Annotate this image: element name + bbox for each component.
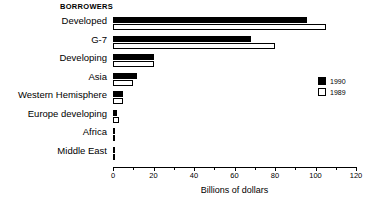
x-tick-minor bbox=[336, 167, 337, 170]
bar-1989 bbox=[113, 135, 115, 141]
bar-1990 bbox=[113, 17, 307, 23]
legend-item: 1989 bbox=[318, 87, 366, 98]
bar-1990 bbox=[113, 54, 154, 60]
x-tick-minor bbox=[255, 167, 256, 170]
x-tick-label: 80 bbox=[271, 172, 279, 180]
bar-1990 bbox=[113, 36, 251, 42]
x-tick-minor bbox=[174, 167, 175, 170]
chart-legend: 19901989 bbox=[318, 76, 366, 98]
legend-swatch bbox=[318, 77, 326, 85]
bar-group bbox=[113, 128, 356, 143]
x-tick-minor bbox=[214, 167, 215, 170]
bar-1990 bbox=[113, 91, 123, 97]
bar-1989 bbox=[113, 61, 154, 67]
legend-swatch bbox=[318, 88, 326, 96]
x-tick-label: 0 bbox=[111, 172, 115, 180]
x-tick-label: 20 bbox=[149, 172, 157, 180]
category-label: Middle East bbox=[0, 146, 110, 156]
bar-1989 bbox=[113, 80, 133, 86]
x-axis-title: Billions of dollars bbox=[113, 185, 356, 195]
category-label: Europe developing bbox=[0, 109, 110, 119]
bar-1989 bbox=[113, 24, 326, 30]
category-axis-labels: DevelopedG-7DevelopingAsiaWestern Hemisp… bbox=[0, 0, 110, 160]
bar-1990 bbox=[113, 73, 137, 79]
bar-group bbox=[113, 17, 356, 32]
x-tick-label: 100 bbox=[309, 172, 322, 180]
category-label: G-7 bbox=[0, 35, 110, 45]
bar-1990 bbox=[113, 147, 115, 153]
category-label: Western Hemisphere bbox=[0, 90, 110, 100]
bar-group bbox=[113, 147, 356, 162]
x-tick-minor bbox=[295, 167, 296, 170]
x-tick-label: 40 bbox=[190, 172, 198, 180]
legend-item: 1990 bbox=[318, 76, 366, 87]
legend-label: 1989 bbox=[330, 88, 346, 97]
bar-1990 bbox=[113, 110, 117, 116]
x-tick-label: 120 bbox=[350, 172, 363, 180]
bar-group bbox=[113, 36, 356, 51]
bar-chart: BORROWERS DevelopedG-7DevelopingAsiaWest… bbox=[0, 0, 369, 204]
x-tick-minor bbox=[133, 167, 134, 170]
bar-1989 bbox=[113, 43, 275, 49]
bar-group bbox=[113, 54, 356, 69]
bar-1990 bbox=[113, 128, 115, 134]
category-label: Asia bbox=[0, 72, 110, 82]
category-label: Africa bbox=[0, 127, 110, 137]
bar-1989 bbox=[113, 98, 123, 104]
bar-1989 bbox=[113, 154, 115, 160]
bar-group bbox=[113, 110, 356, 125]
category-label: Developing bbox=[0, 53, 110, 63]
bar-1989 bbox=[113, 117, 119, 123]
category-label: Developed bbox=[0, 16, 110, 26]
legend-label: 1990 bbox=[330, 77, 346, 86]
x-tick-label: 60 bbox=[230, 172, 238, 180]
